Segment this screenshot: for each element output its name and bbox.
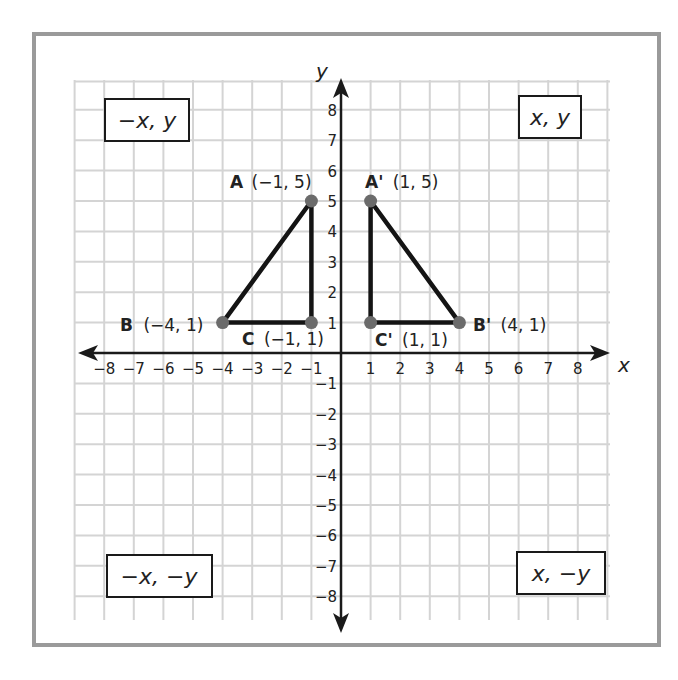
- x-tick-label: 2: [395, 360, 405, 378]
- x-tick-label: −4: [212, 360, 234, 378]
- x-tick-label: −3: [241, 360, 263, 378]
- y-tick-label: 2: [327, 284, 337, 302]
- coordinate-plane-figure: x y −8−7−6−5−4−3−2−112345678 87654321−1−…: [0, 0, 678, 680]
- y-tick-label: 5: [327, 193, 337, 211]
- y-tick-label: −2: [315, 406, 337, 424]
- x-tick-label: 6: [514, 360, 524, 378]
- x-tick-label: −2: [271, 360, 293, 378]
- y-tick-label: 6: [327, 163, 337, 181]
- y-tick-label: −7: [315, 558, 337, 576]
- x-tick-label: −5: [182, 360, 204, 378]
- point-C-name: C: [242, 329, 254, 349]
- quadrant-q3-text: −x, −y: [121, 564, 199, 589]
- y-tick-label: −4: [315, 467, 337, 485]
- vertex-point-icon: [305, 195, 318, 208]
- label-point-A: A (−1, 5): [230, 172, 312, 192]
- point-A-coords: (−1, 5): [252, 172, 312, 192]
- y-tick-label: 7: [327, 132, 337, 150]
- y-tick-label: 3: [327, 254, 337, 272]
- x-axis-label: x: [617, 353, 630, 377]
- point-B-prime-name: B': [473, 315, 491, 335]
- vertex-point-icon: [364, 316, 377, 329]
- y-tick-label: −1: [315, 375, 337, 393]
- y-tick-label: 8: [327, 102, 337, 120]
- x-tick-label: −8: [93, 360, 115, 378]
- point-C-coords: (−1, 1): [264, 329, 324, 349]
- point-B-prime-coords: (4, 1): [501, 315, 547, 335]
- x-tick-label: 7: [543, 360, 553, 378]
- point-B-name: B: [120, 315, 133, 335]
- y-tick-label: 1: [327, 315, 337, 333]
- x-tick-label: −7: [123, 360, 145, 378]
- point-B-coords: (−4, 1): [143, 315, 203, 335]
- quadrant-q2-text: −x, y: [118, 108, 177, 133]
- y-axis-label: y: [315, 59, 329, 83]
- quadrant-label-q3: −x, −y: [107, 555, 212, 597]
- y-tick-label: −8: [315, 588, 337, 606]
- quadrant-label-q2: −x, y: [105, 99, 189, 141]
- x-tick-label: 5: [484, 360, 494, 378]
- quadrant-q4-text: x, −y: [531, 561, 591, 586]
- x-tick-label: 8: [573, 360, 583, 378]
- svg-text:C' (1, 1): C' (1, 1): [375, 330, 448, 350]
- y-tick-label: −3: [315, 436, 337, 454]
- x-tick-label: 3: [425, 360, 435, 378]
- svg-text:A (−1, 5): A (−1, 5): [230, 172, 312, 192]
- label-point-B: B (−4, 1): [120, 315, 203, 335]
- y-tick-label: −5: [315, 497, 337, 515]
- svg-text:B (−4, 1): B (−4, 1): [120, 315, 203, 335]
- y-tick-label: 4: [327, 223, 337, 241]
- vertex-point-icon: [364, 195, 377, 208]
- point-C-prime-name: C': [375, 330, 393, 350]
- vertex-point-icon: [453, 316, 466, 329]
- quadrant-label-q4: x, −y: [517, 552, 605, 594]
- point-A-prime-name: A': [365, 172, 383, 192]
- label-point-A-prime: A' (1, 5): [365, 172, 439, 192]
- label-point-B-prime: B' (4, 1): [473, 315, 546, 335]
- vertex-point-icon: [216, 316, 229, 329]
- quadrant-label-q1: x, y: [519, 96, 581, 138]
- y-tick-label: −6: [315, 527, 337, 545]
- vertex-point-icon: [305, 316, 318, 329]
- point-C-prime-coords: (1, 1): [402, 330, 448, 350]
- x-tick-label: 1: [366, 360, 376, 378]
- point-A-name: A: [230, 172, 244, 192]
- svg-text:C (−1, 1): C (−1, 1): [242, 329, 324, 349]
- quadrant-q1-text: x, y: [529, 105, 571, 130]
- svg-text:B' (4, 1): B' (4, 1): [473, 315, 546, 335]
- point-A-prime-coords: (1, 5): [393, 172, 439, 192]
- svg-text:A' (1, 5): A' (1, 5): [365, 172, 439, 192]
- x-tick-label: −6: [152, 360, 174, 378]
- label-point-C-prime: C' (1, 1): [375, 330, 448, 350]
- label-point-C: C (−1, 1): [242, 329, 324, 349]
- x-tick-label: 4: [455, 360, 465, 378]
